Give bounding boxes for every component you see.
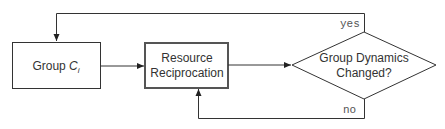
- group-label: Group Ci: [32, 59, 79, 75]
- no-label: no: [343, 104, 356, 116]
- yes-label: yes: [340, 18, 360, 30]
- arrow-yes-loop: [57, 14, 365, 42]
- arrow-no-loop: [199, 89, 365, 119]
- decision-label-line1: Group Dynamics: [319, 51, 408, 65]
- resource-label-line1: Resource: [161, 51, 213, 65]
- resource-label-line2: Reciprocation: [150, 66, 223, 80]
- decision-label-line2: Changed?: [336, 66, 392, 80]
- flowchart: Group Ci Resource Reciprocation Group Dy…: [0, 0, 445, 129]
